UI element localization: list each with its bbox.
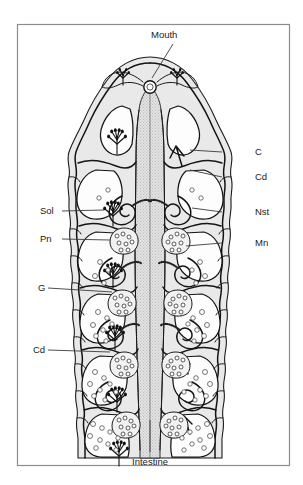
- label-nst: Nst: [255, 206, 270, 217]
- anatomy-diagram: Mouth Intestine C Cd Nst Mn Sol Pn G Cd: [0, 0, 303, 485]
- label-pn: Pn: [40, 233, 52, 244]
- label-c: C: [255, 146, 262, 157]
- label-mn: Mn: [255, 237, 268, 248]
- label-mouth: Mouth: [151, 29, 177, 40]
- organism-body: [68, 57, 232, 466]
- label-cd-left: Cd: [33, 344, 45, 355]
- label-cd-right: Cd: [255, 171, 267, 182]
- figure-root: Mouth Intestine C Cd Nst Mn Sol Pn G Cd: [0, 0, 303, 485]
- label-sol: Sol: [40, 205, 54, 216]
- label-g: G: [38, 282, 45, 293]
- mouth-inner: [147, 84, 153, 90]
- label-intestine: Intestine: [132, 456, 168, 467]
